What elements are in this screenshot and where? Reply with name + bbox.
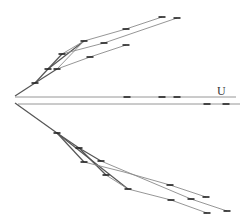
upper-branch <box>126 17 162 29</box>
lower-tree <box>15 103 231 213</box>
lower-branch <box>128 189 171 200</box>
upper-branch <box>84 29 126 41</box>
axis-lines <box>15 97 240 104</box>
lower-branch <box>170 185 206 197</box>
u-label: U <box>217 84 226 98</box>
upper-tree <box>15 17 181 96</box>
upper-branch <box>48 41 84 69</box>
lower-branch <box>171 200 207 213</box>
lower-branch <box>106 175 128 189</box>
upper-branch <box>90 45 126 57</box>
upper-branch <box>62 43 104 54</box>
upper-branch <box>104 18 177 43</box>
lower-branch <box>15 103 57 133</box>
diagram-canvas: U <box>0 0 248 223</box>
upper-branch <box>15 83 35 96</box>
tree-diagram: U <box>0 0 248 223</box>
